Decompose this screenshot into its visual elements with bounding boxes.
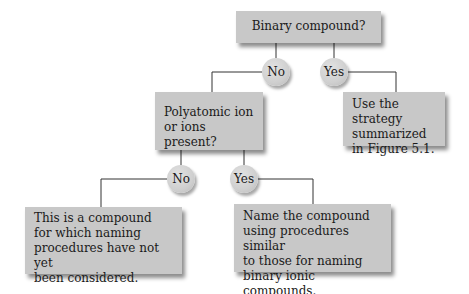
node-no-binary: No: [262, 58, 290, 86]
node-name-compound: Name the compound using procedures simil…: [234, 204, 391, 272]
node-no-polyatomic: No: [167, 165, 195, 193]
node-polyatomic-ion-present: Polyatomic ion or ions present?: [155, 92, 263, 150]
node-yes-polyatomic: Yes: [230, 165, 258, 193]
node-not-yet-considered: This is a compound for which naming proc…: [25, 207, 182, 274]
node-yes-binary: Yes: [320, 58, 348, 86]
node-use-strategy: Use the strategy summarized in Figure 5.…: [343, 92, 445, 146]
node-binary-compound: Binary compound?: [236, 11, 381, 43]
